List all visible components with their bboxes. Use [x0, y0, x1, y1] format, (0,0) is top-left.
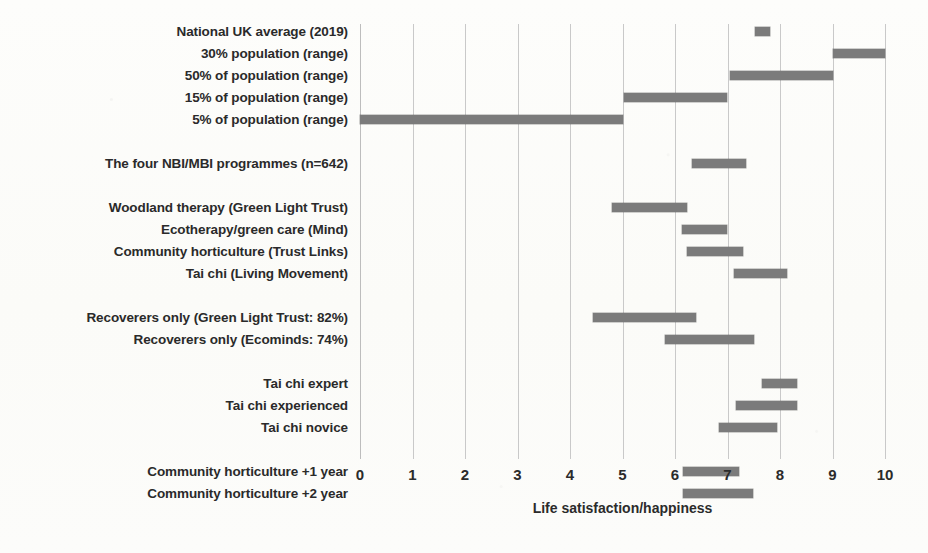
range-bar [736, 401, 797, 410]
plot-area [360, 24, 885, 459]
category-label: Tai chi (Living Movement) [0, 267, 348, 281]
bar-row [360, 115, 885, 124]
gridline-x-2 [465, 24, 466, 459]
x-tick-label-3: 3 [513, 466, 521, 483]
range-bar [683, 489, 753, 498]
range-bar [762, 379, 797, 388]
range-bar [755, 27, 770, 36]
gridline-x-0 [360, 24, 361, 459]
range-bar [682, 225, 728, 234]
bar-row [360, 71, 885, 80]
x-tick-label-7: 7 [723, 466, 731, 483]
category-label: Tai chi experienced [0, 399, 348, 413]
range-bar [687, 247, 744, 256]
gridline-x-5 [623, 24, 624, 459]
gridline-x-10 [885, 24, 886, 459]
bar-row [360, 247, 885, 256]
x-tick-label-2: 2 [461, 466, 469, 483]
x-tick-label-9: 9 [828, 466, 836, 483]
x-tick-label-4: 4 [566, 466, 574, 483]
category-label: 5% of population (range) [0, 113, 348, 127]
category-label: Tai chi novice [0, 421, 348, 435]
category-label: Ecotherapy/green care (Mind) [0, 223, 348, 237]
range-bar [612, 203, 687, 212]
bar-row [360, 159, 885, 168]
range-bar [360, 115, 623, 124]
x-tick-label-10: 10 [877, 466, 894, 483]
range-bar [730, 71, 832, 80]
bar-row [360, 489, 885, 498]
category-label: Tai chi expert [0, 377, 348, 391]
bar-row [360, 423, 885, 432]
bar-row [360, 379, 885, 388]
category-label: 30% population (range) [0, 47, 348, 61]
category-label: National UK average (2019) [0, 25, 348, 39]
gridline-x-3 [518, 24, 519, 459]
bar-row [360, 27, 885, 36]
x-tick-label-0: 0 [356, 466, 364, 483]
range-bar [734, 269, 787, 278]
range-bar [719, 423, 777, 432]
gridline-x-7 [728, 24, 729, 459]
bar-row [360, 335, 885, 344]
x-axis-title: Life satisfaction/happiness [360, 500, 885, 516]
bar-row [360, 225, 885, 234]
bar-row [360, 401, 885, 410]
category-label: Community horticulture (Trust Links) [0, 245, 348, 259]
range-bar-chart: National UK average (2019)30% population… [0, 0, 928, 553]
range-bar [593, 313, 696, 322]
bar-row [360, 313, 885, 322]
category-label: Community horticulture +2 year [0, 487, 348, 501]
category-label: Community horticulture +1 year [0, 465, 348, 479]
range-bar [692, 159, 746, 168]
gridline-x-6 [675, 24, 676, 459]
gridline-x-1 [413, 24, 414, 459]
category-label: Recoverers only (Ecominds: 74%) [0, 333, 348, 347]
bar-row [360, 203, 885, 212]
range-bar [624, 93, 727, 102]
category-label: 15% of population (range) [0, 91, 348, 105]
category-label: The four NBI/MBI programmes (n=642) [0, 157, 348, 171]
category-label: Woodland therapy (Green Light Trust) [0, 201, 348, 215]
bar-row [360, 269, 885, 278]
range-bar [833, 49, 886, 58]
gridline-x-9 [833, 24, 834, 459]
category-label: 50% of population (range) [0, 69, 348, 83]
gridline-x-8 [780, 24, 781, 459]
x-tick-label-6: 6 [671, 466, 679, 483]
x-tick-label-5: 5 [618, 466, 626, 483]
x-tick-label-8: 8 [776, 466, 784, 483]
range-bar [665, 335, 754, 344]
gridline-x-4 [570, 24, 571, 459]
x-tick-label-1: 1 [408, 466, 416, 483]
bar-row [360, 93, 885, 102]
bar-row [360, 49, 885, 58]
category-label: Recoverers only (Green Light Trust: 82%) [0, 311, 348, 325]
